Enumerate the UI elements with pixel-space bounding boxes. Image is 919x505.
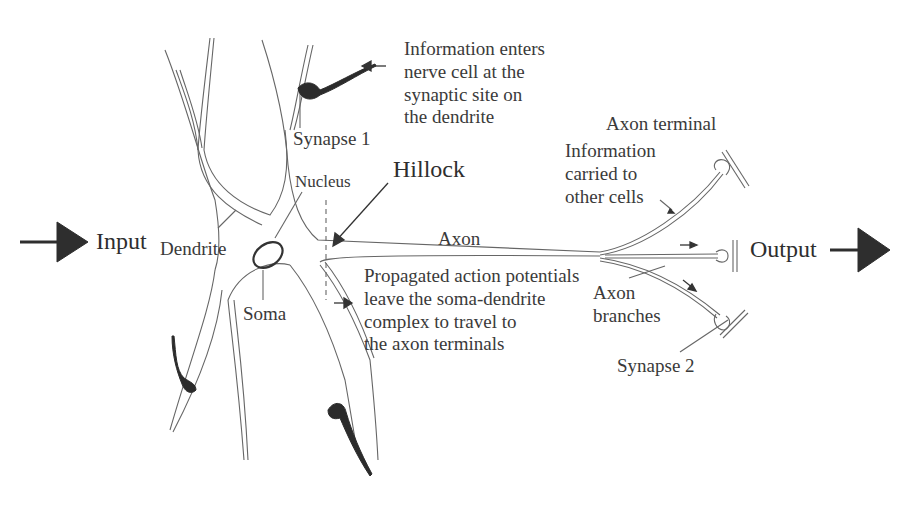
hillock-label: Hillock: [393, 156, 465, 184]
nucleus-label: Nucleus: [295, 172, 351, 192]
synapse-2-label: Synapse 2: [617, 355, 695, 377]
synapse-lower-left-blob: [172, 336, 196, 392]
synapse-1-blob: [298, 64, 376, 99]
info-carried-annotation: Information carried to other cells: [565, 140, 656, 208]
output-arrow-head: [858, 228, 890, 272]
info-enters-annotation: Information enters nerve cell at the syn…: [404, 38, 545, 129]
axon-terminal-upper: [714, 160, 729, 175]
hillock-arrow: [335, 183, 388, 242]
dendrite-leader: [218, 210, 236, 228]
propagated-annotation: Propagated action potentials leave the s…: [364, 265, 579, 356]
dendrite-label: Dendrite: [160, 238, 226, 260]
synapse-lower-right-blob: [328, 403, 372, 476]
dendrite-upper-left: [198, 38, 262, 225]
synapse2-leader: [680, 320, 728, 352]
axon-label: Axon: [438, 228, 480, 250]
input-label: Input: [96, 228, 147, 256]
axon-terminal-middle: [716, 250, 728, 262]
soma-label: Soma: [243, 303, 286, 325]
neuron-diagram: Input Dendrite Nucleus Hillock Soma Axon…: [0, 0, 919, 505]
input-arrow-head: [57, 222, 88, 262]
synapse-1-label: Synapse 1: [293, 128, 371, 150]
output-label: Output: [750, 236, 817, 264]
axon-branches-label: Axon branches: [593, 282, 661, 328]
nucleus-shape: [249, 237, 288, 273]
axon-terminal-label: Axon terminal: [606, 113, 716, 135]
axon-branch-middle: [605, 254, 718, 255]
